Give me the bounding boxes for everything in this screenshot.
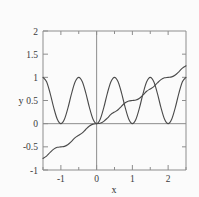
y-tick-label--0.5: -0.5 (23, 142, 38, 152)
y-tick-label-0: 0 (33, 119, 38, 129)
x-tick-label-0: 0 (94, 174, 99, 184)
x-tick-label--1: -1 (57, 174, 65, 184)
y-tick-label-2: 2 (33, 27, 38, 37)
y-tick-label-1: 1 (33, 73, 38, 83)
y-tick-label-1.5: 1.5 (26, 50, 38, 60)
y-tick-label-0.5: 0.5 (26, 96, 38, 106)
x-tick-label-2: 2 (166, 174, 171, 184)
x-axis-title: x (112, 184, 117, 195)
y-tick-label--1: -1 (30, 166, 38, 176)
chart-figure: 2 1.5 1 0.5 0 -0.5 -1 -1 0 1 2 y x (0, 0, 199, 197)
y-axis-title: y (19, 95, 24, 106)
x-tick-label-1: 1 (130, 174, 135, 184)
plot-canvas: 2 1.5 1 0.5 0 -0.5 -1 -1 0 1 2 y x (0, 0, 199, 197)
